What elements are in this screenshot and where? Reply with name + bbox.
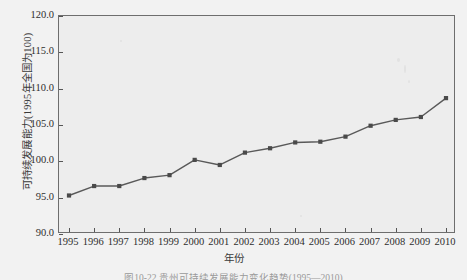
data-point-marker [318,140,322,144]
x-axis-tick-label: 2004 [284,236,305,247]
x-axis-tick-mark [295,228,296,232]
y-axis-tick-label: 120.0 [12,10,54,21]
x-axis-tick-label: 1995 [58,236,79,247]
y-axis-tick-mark [59,161,63,162]
x-axis-tick-label: 2003 [259,236,280,247]
data-point-marker [167,173,171,177]
x-axis-tick-label: 2006 [334,236,355,247]
x-axis-tick-label: 2000 [183,236,204,247]
y-axis-tick-label: 105.0 [12,119,54,130]
x-axis-tick-label: 1999 [158,236,179,247]
data-point-marker [117,184,121,188]
x-axis-tick-mark [270,228,271,232]
x-axis-tick-label: 2009 [409,236,430,247]
y-axis-tick-label: 95.0 [12,191,54,202]
x-axis-tick-mark [220,228,221,232]
data-point-marker [369,124,373,128]
line-series-svg [59,16,456,234]
data-point-marker [268,146,272,150]
y-axis-tick-label: 115.0 [12,46,54,57]
x-axis-tick-label: 2007 [359,236,380,247]
data-point-marker [419,115,423,119]
x-axis-tick-label: 1998 [133,236,154,247]
x-axis-tick-mark [94,228,95,232]
x-axis-tick-labels: 1995199619971998199920002001200220032004… [58,236,455,250]
scan-artifact [120,40,122,42]
x-axis-tick-label: 2001 [208,236,229,247]
y-axis-tick-label: 100.0 [12,155,54,166]
data-point-marker [394,118,398,122]
y-axis-tick-mark [59,16,63,17]
x-axis-tick-mark [345,228,346,232]
data-point-marker [67,193,71,197]
data-point-marker [92,184,96,188]
y-axis-tick-label: 110.0 [12,82,54,93]
x-axis-tick-mark [421,228,422,232]
x-axis-tick-mark [144,228,145,232]
x-axis-tick-mark [396,228,397,232]
x-axis-tick-mark [320,228,321,232]
y-axis-tick-labels: 90.095.0100.0105.0110.0115.0120.0 [10,0,54,280]
scan-artifact [300,215,302,217]
y-axis-tick-mark [59,52,63,53]
x-axis-tick-label: 2002 [233,236,254,247]
y-axis-tick-label: 90.0 [12,228,54,239]
x-axis-tick-mark [195,228,196,232]
x-axis-tick-label: 1997 [108,236,129,247]
scan-artifact [397,58,400,62]
x-axis-tick-mark [119,228,120,232]
x-axis-tick-label: 1996 [83,236,104,247]
x-axis-tick-mark [170,228,171,232]
data-line [69,98,446,195]
x-axis-tick-label: 2005 [309,236,330,247]
x-axis-tick-mark [69,228,70,232]
plot-area [58,15,455,233]
data-point-marker [293,140,297,144]
scan-artifact [408,80,410,83]
data-point-marker [343,135,347,139]
x-axis-label: 年份 [0,250,467,265]
data-point-marker [243,151,247,155]
scan-artifact [404,65,406,73]
data-point-marker [218,163,222,167]
y-axis-tick-mark [59,125,63,126]
y-axis-tick-mark [59,234,63,235]
data-point-marker [193,158,197,162]
data-point-marker [142,176,146,180]
x-axis-tick-mark [446,228,447,232]
data-point-marker [444,96,448,100]
y-axis-tick-mark [59,198,63,199]
x-axis-tick-mark [371,228,372,232]
y-axis-tick-mark [59,89,63,90]
figure-caption: 图10-22 贵州可持续发展能力变化趋势(1995—2010) [0,270,467,280]
x-axis-tick-label: 2008 [384,236,405,247]
figure-container: 可持续发展能力(1995年全国为100) 90.095.0100.0105.01… [0,0,467,280]
x-axis-tick-label: 2010 [435,236,456,247]
x-axis-tick-mark [245,228,246,232]
